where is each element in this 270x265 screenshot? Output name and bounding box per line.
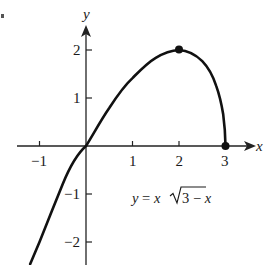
y-axis-label: y [81, 6, 90, 22]
x-axis-label: x [255, 138, 263, 154]
stray-mark [1, 14, 4, 18]
formula-radicand-number: 3 − [182, 190, 205, 206]
y-tick-label-1: 1 [73, 90, 81, 106]
function-curve [30, 50, 225, 264]
formula-x: x [153, 190, 161, 206]
x-tick-label-neg1: −1 [31, 153, 47, 169]
y-tick-label-neg1: −1 [64, 186, 80, 202]
formula-annotation: y = x 3 − x [130, 187, 212, 206]
svg-text:3 − x: 3 − x [182, 190, 212, 206]
x-tick-label-3: 3 [221, 153, 229, 169]
svg-text:y = x: y = x [130, 190, 161, 206]
x-tick-label-1: 1 [129, 153, 137, 169]
y-axis: y [81, 6, 91, 265]
x-tick-label-2: 2 [176, 153, 184, 169]
formula-equals: = [138, 190, 153, 206]
endpoint-marker [222, 142, 230, 150]
y-tick-label-neg2: −2 [64, 234, 80, 250]
max-point-marker [175, 46, 183, 54]
y-tick-label-2: 2 [73, 42, 81, 58]
formula-radicand-x: x [204, 190, 212, 206]
function-graph: x y −1 1 2 3 2 1 −1 −2 y = x 3 − x [0, 0, 270, 265]
x-ticks [40, 141, 226, 146]
